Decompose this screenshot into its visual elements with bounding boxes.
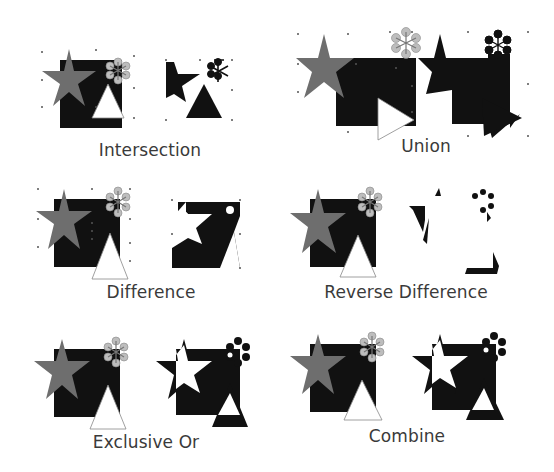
- union-result-figure: [412, 28, 532, 140]
- combine-result-shape: [412, 332, 506, 420]
- difference-result-shape: [172, 202, 240, 268]
- caption-reverse-difference: Reverse Difference: [324, 282, 487, 302]
- caption-difference: Difference: [107, 282, 196, 302]
- difference-result-figure: [168, 194, 244, 274]
- triangle-result-shape: [186, 84, 222, 118]
- caption-intersection: Intersection: [99, 140, 201, 160]
- exclusive-or-result-figure: [156, 337, 256, 429]
- reverse-difference-result-figure: [405, 182, 505, 278]
- intersection-result-figure: [158, 54, 238, 130]
- caption-combine: Combine: [369, 426, 445, 446]
- intersection-before-figure: [38, 44, 138, 134]
- caption-union: Union: [401, 136, 451, 156]
- difference-before-figure: [34, 183, 134, 278]
- combine-before-figure: [290, 332, 390, 424]
- exclusive-or-before-figure: [34, 337, 134, 429]
- combine-result-figure: [412, 332, 512, 424]
- exclusive-or-result-shape: [156, 337, 250, 427]
- union-before-figure: [296, 28, 416, 140]
- star-result-shape: [166, 62, 200, 102]
- reverse-difference-result-shape: [409, 188, 499, 274]
- flower-result-shape: [208, 59, 229, 83]
- reverse-difference-before-figure: [290, 183, 390, 278]
- caption-exclusive-or: Exclusive Or: [93, 432, 199, 452]
